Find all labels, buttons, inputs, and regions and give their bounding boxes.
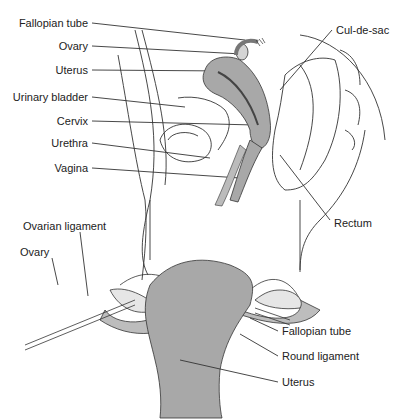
label-uterus-frontal: Uterus (282, 376, 314, 389)
label-fallopian-tube: Fallopian tube (19, 17, 88, 30)
label-ovary-frontal: Ovary (20, 246, 49, 259)
label-ovarian-ligament: Ovarian ligament (23, 220, 106, 233)
label-vagina: Vagina (55, 162, 88, 175)
label-ovary: Ovary (59, 40, 88, 53)
label-cervix: Cervix (57, 115, 88, 128)
label-cul-de-sac: Cul-de-sac (336, 24, 389, 37)
anatomy-diagram: Fallopian tube Ovary Uterus Urinary blad… (0, 0, 405, 420)
label-urethra: Urethra (51, 137, 88, 150)
label-round-ligament: Round ligament (282, 350, 359, 363)
label-uterus: Uterus (56, 64, 88, 77)
label-fallopian-tube-frontal: Fallopian tube (282, 325, 351, 338)
label-urinary-bladder: Urinary bladder (13, 91, 88, 104)
label-rectum: Rectum (334, 217, 372, 230)
